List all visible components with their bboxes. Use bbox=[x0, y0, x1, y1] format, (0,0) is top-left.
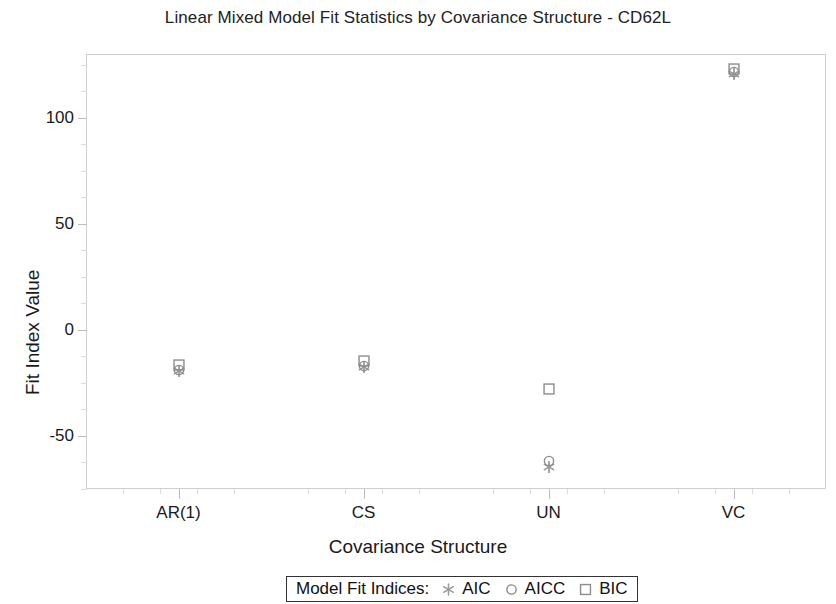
x-minor-tick bbox=[234, 489, 235, 494]
x-major-tick bbox=[364, 489, 365, 499]
data-point-bic bbox=[171, 357, 186, 372]
x-tick-label: CS bbox=[352, 503, 376, 523]
x-major-tick bbox=[179, 489, 180, 499]
x-tick-label: UN bbox=[536, 503, 561, 523]
y-axis-title: Fit Index Value bbox=[22, 270, 44, 395]
x-tick-label: AR(1) bbox=[156, 503, 200, 523]
y-tick-label: 50 bbox=[55, 214, 74, 234]
circle-icon bbox=[503, 581, 520, 598]
legend-entry-aicc: AICC bbox=[503, 579, 566, 599]
x-major-tick bbox=[549, 489, 550, 499]
chart-figure: Linear Mixed Model Fit Statistics by Cov… bbox=[0, 0, 836, 604]
data-point-bic bbox=[356, 353, 371, 368]
legend-label: AICC bbox=[525, 579, 566, 599]
data-point-bic bbox=[541, 382, 556, 397]
x-minor-tick bbox=[308, 489, 309, 494]
x-minor-tick bbox=[345, 489, 346, 494]
x-minor-tick bbox=[530, 489, 531, 494]
x-major-tick bbox=[734, 489, 735, 499]
x-minor-tick bbox=[567, 489, 568, 494]
y-minor-tick bbox=[81, 489, 87, 490]
legend-entry-aic: AIC bbox=[440, 579, 490, 599]
x-tick-label: VC bbox=[722, 503, 746, 523]
plot-data-area bbox=[86, 54, 826, 489]
x-minor-tick bbox=[160, 489, 161, 494]
x-minor-tick bbox=[678, 489, 679, 494]
data-point-aicc bbox=[541, 454, 556, 469]
x-minor-tick bbox=[197, 489, 198, 494]
legend-title: Model Fit Indices: bbox=[296, 579, 429, 599]
chart-legend: Model Fit Indices: AICAICCBIC bbox=[286, 576, 638, 602]
x-minor-tick bbox=[123, 489, 124, 494]
x-minor-tick bbox=[715, 489, 716, 494]
y-tick-label: -50 bbox=[49, 426, 74, 446]
chart-title: Linear Mixed Model Fit Statistics by Cov… bbox=[0, 8, 836, 28]
y-tick-label: 0 bbox=[65, 320, 74, 340]
data-point-bic bbox=[726, 61, 741, 76]
x-axis-title: Covariance Structure bbox=[0, 536, 836, 558]
square-icon bbox=[577, 581, 594, 598]
x-minor-tick bbox=[789, 489, 790, 494]
legend-label: AIC bbox=[462, 579, 490, 599]
x-minor-tick bbox=[382, 489, 383, 494]
legend-entry-bic: BIC bbox=[577, 579, 627, 599]
x-minor-tick bbox=[604, 489, 605, 494]
asterisk-icon bbox=[440, 581, 457, 598]
y-tick-label: 100 bbox=[46, 108, 74, 128]
x-minor-tick bbox=[493, 489, 494, 494]
x-minor-tick bbox=[419, 489, 420, 494]
legend-label: BIC bbox=[599, 579, 627, 599]
x-minor-tick bbox=[752, 489, 753, 494]
